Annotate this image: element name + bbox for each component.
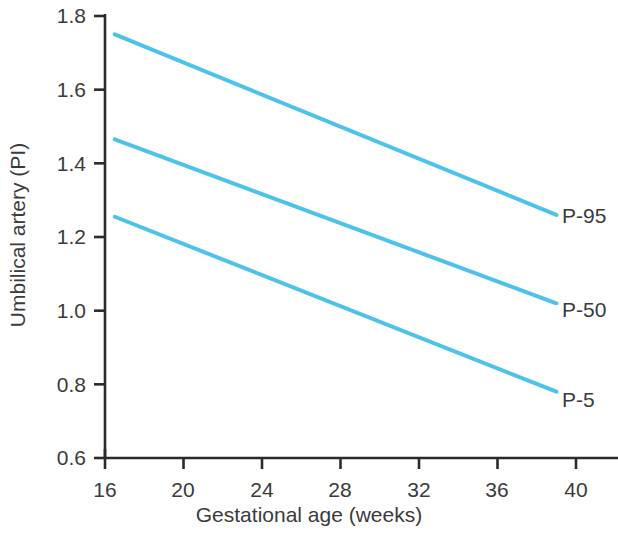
series-line-p-95	[115, 34, 557, 214]
xtick-label-24: 24	[250, 478, 273, 502]
chart-plot-area	[0, 0, 618, 535]
xtick-label-20: 20	[171, 478, 194, 502]
x-axis-title: Gestational age (weeks)	[0, 503, 618, 527]
series-label-p5: P-5	[562, 388, 595, 412]
xtick-label-28: 28	[328, 478, 351, 502]
series-label-p50: P-50	[562, 298, 606, 322]
series-line-p-50	[115, 139, 557, 303]
umbilical-artery-pi-chart: 1.8 1.6 1.4 1.2 1.0 0.8 0.6 16 20 24 28 …	[0, 0, 618, 535]
series-label-p95: P-95	[562, 204, 606, 228]
y-axis-title-wrap: Umbilical artery (PI)	[0, 0, 36, 470]
xtick-label-40: 40	[564, 478, 587, 502]
xtick-label-36: 36	[485, 478, 508, 502]
series-line-p-5	[115, 217, 557, 392]
y-axis-title: Umbilical artery (PI)	[6, 143, 30, 327]
xtick-label-32: 32	[407, 478, 430, 502]
xtick-label-16: 16	[93, 478, 116, 502]
series-lines-group	[115, 34, 557, 391]
